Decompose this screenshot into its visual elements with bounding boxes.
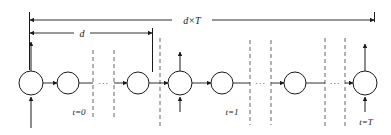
dimension-dxT-label: d×T: [183, 15, 202, 26]
node-n3[interactable]: [127, 72, 149, 94]
timeline-chain-diagram: d×T d: [0, 0, 391, 135]
node-n1[interactable]: [19, 42, 43, 128]
dimension-d: d: [30, 28, 152, 39]
figure-container: d×T d: [0, 0, 391, 135]
node-n5[interactable]: [211, 72, 233, 94]
node-circle[interactable]: [127, 72, 149, 94]
node-circle[interactable]: [353, 71, 377, 95]
node-n4[interactable]: [168, 52, 192, 112]
dimension-dxT: d×T: [30, 15, 374, 26]
node-circle[interactable]: [19, 71, 43, 95]
time-label-tT: t=T: [359, 117, 374, 127]
node-circle[interactable]: [284, 72, 306, 94]
time-label-t1: t=1: [225, 107, 238, 117]
dimension-bars: d×T d: [30, 12, 375, 72]
node-n2[interactable]: [57, 72, 79, 94]
node-circle[interactable]: [168, 71, 192, 95]
node-n6[interactable]: [284, 72, 306, 94]
ellipsis-dots: ···: [255, 78, 266, 88]
node-circle[interactable]: [57, 72, 79, 94]
ellipsis-dots: ···: [98, 78, 109, 88]
node-circle[interactable]: [211, 72, 233, 94]
time-label-t0: t=0: [72, 107, 86, 117]
node-n7[interactable]: [353, 44, 377, 112]
time-labels: t=0 t=1 t=T: [72, 107, 373, 127]
dimension-d-label: d: [80, 28, 86, 39]
ellipsis-dots: ···: [330, 78, 341, 88]
